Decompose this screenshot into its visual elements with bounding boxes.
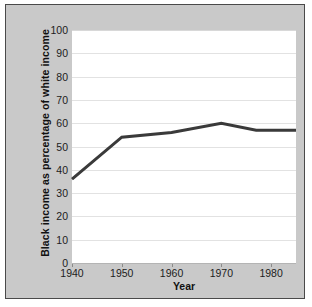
x-tick-label-1940: 1940 (49, 267, 95, 279)
chart-figure: 0102030405060708090100 Black income as p… (0, 0, 312, 307)
y-axis-title: Black income as percentage of white inco… (39, 18, 51, 268)
x-tick-label-1950: 1950 (99, 267, 145, 279)
plot-area (72, 30, 296, 263)
x-axis-title: Year (72, 280, 296, 292)
x-tick-label-1960: 1960 (149, 267, 195, 279)
chart-panel: 0102030405060708090100 Black income as p… (5, 4, 305, 299)
data-series-line (72, 30, 296, 263)
x-tick-label-1970: 1970 (198, 267, 244, 279)
x-tick-label-1980: 1980 (248, 267, 294, 279)
